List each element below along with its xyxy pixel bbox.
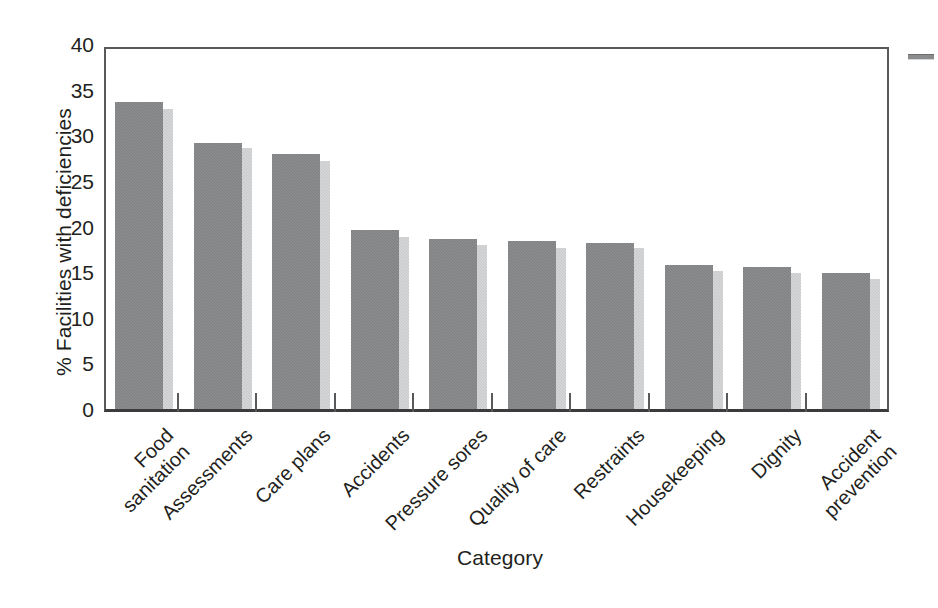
x-tick-mark bbox=[177, 393, 179, 412]
bar-series1 bbox=[429, 239, 477, 409]
bar-group bbox=[508, 44, 566, 409]
bar-group bbox=[743, 44, 801, 409]
bar-series2 bbox=[163, 109, 173, 409]
bar-group bbox=[665, 44, 723, 409]
bar-series1 bbox=[272, 154, 320, 409]
legend-swatch-cropped bbox=[908, 54, 934, 60]
y-tick-label: 30 bbox=[48, 124, 94, 148]
bar-series2 bbox=[791, 273, 801, 409]
bar-group bbox=[822, 44, 880, 409]
y-tick-label: 5 bbox=[48, 352, 94, 376]
x-tick-mark bbox=[805, 393, 807, 412]
bar-group bbox=[586, 44, 644, 409]
x-tick-mark bbox=[412, 393, 414, 412]
x-tick-mark bbox=[726, 393, 728, 412]
bar-series1 bbox=[115, 102, 163, 410]
bar-series1 bbox=[822, 273, 870, 409]
bar-series2 bbox=[242, 148, 252, 409]
y-tick-label: 15 bbox=[48, 261, 94, 285]
y-tick-label: 0 bbox=[48, 398, 94, 422]
x-tick-mark bbox=[569, 393, 571, 412]
plot-area bbox=[104, 47, 889, 412]
y-tick-label: 40 bbox=[48, 33, 94, 57]
bar-series2 bbox=[320, 161, 330, 409]
bar-series1 bbox=[351, 230, 399, 409]
x-tick-mark bbox=[491, 393, 493, 412]
y-tick-label: 25 bbox=[48, 170, 94, 194]
bar-series2 bbox=[399, 237, 409, 409]
bar-series1 bbox=[194, 143, 242, 409]
bar-group bbox=[351, 44, 409, 409]
bar-series1 bbox=[665, 265, 713, 409]
bar-group bbox=[272, 44, 330, 409]
y-tick-label: 35 bbox=[48, 79, 94, 103]
y-tick-label: 10 bbox=[48, 307, 94, 331]
y-tick-label: 20 bbox=[48, 216, 94, 240]
x-tick-mark bbox=[648, 393, 650, 412]
bar-series2 bbox=[634, 248, 644, 409]
bar-series1 bbox=[508, 241, 556, 409]
bar-series2 bbox=[477, 245, 487, 409]
bar-series2 bbox=[870, 279, 880, 409]
bar-series1 bbox=[743, 267, 791, 409]
bar-group bbox=[429, 44, 487, 409]
bar-group bbox=[115, 44, 173, 409]
x-tick-mark bbox=[255, 393, 257, 412]
bar-group bbox=[194, 44, 252, 409]
bar-series2 bbox=[713, 271, 723, 409]
x-axis-title: Category bbox=[0, 546, 938, 570]
bar-series2 bbox=[556, 248, 566, 410]
x-tick-mark bbox=[334, 393, 336, 412]
bar-series1 bbox=[586, 243, 634, 409]
